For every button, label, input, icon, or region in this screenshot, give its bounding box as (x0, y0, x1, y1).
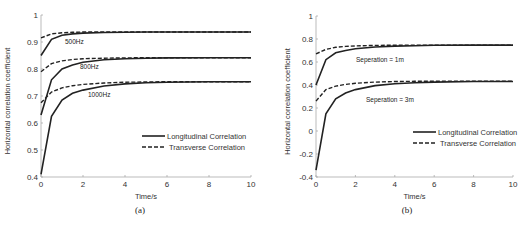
x-tick-label: 0 (314, 180, 319, 189)
chart-panel-b: 0246810-0.4-0.200.20.40.60.81Time/sHoriz… (283, 12, 518, 215)
x-tick-label: 6 (165, 180, 170, 189)
series-line (41, 82, 251, 103)
y-tick-label: 0.5 (27, 146, 39, 155)
y-tick-label: 0.8 (27, 65, 39, 74)
x-tick-label: 10 (509, 180, 518, 189)
y-tick-label: 0.6 (302, 58, 314, 67)
y-tick-label: 0.4 (302, 81, 314, 90)
annotation-label: 500Hz (65, 38, 84, 45)
y-axis-label: Horizontal correlation coefficient (283, 47, 292, 154)
series-line (316, 81, 513, 101)
series-line (316, 82, 513, 171)
y-tick-label: 0.9 (27, 38, 39, 47)
x-tick-label: 8 (471, 180, 476, 189)
x-tick-label: 10 (247, 180, 256, 189)
chart-panel-a: 02468100.40.50.60.70.80.91Time/sHorizont… (3, 11, 256, 215)
y-tick-label: 1 (34, 11, 39, 20)
x-tick-label: 0 (39, 180, 44, 189)
annotation-label: 800Hz (80, 63, 99, 70)
panel-caption: (b) (402, 205, 413, 215)
y-axis-label: Horizontal correlation coefficient (3, 47, 12, 154)
y-tick-label: 0.6 (27, 119, 39, 128)
legend-label: Longitudinal Correlation (438, 128, 517, 137)
x-tick-label: 4 (123, 180, 128, 189)
x-axis-label: Time/s (403, 192, 425, 201)
x-axis-label: Time/s (135, 192, 157, 201)
y-tick-label: 0.8 (302, 35, 314, 44)
annotation-label: Seperation = 1m (356, 56, 404, 64)
series-line (316, 45, 513, 85)
y-tick-label: 0.7 (27, 92, 39, 101)
y-tick-label: 0.4 (27, 173, 39, 182)
x-tick-label: 6 (432, 180, 437, 189)
x-tick-label: 2 (81, 180, 86, 189)
legend-label: Transverse Correlation (169, 143, 245, 152)
annotation-label: 1000Hz (88, 91, 110, 98)
series-line (41, 82, 251, 175)
series-line (41, 32, 251, 38)
y-tick-label: 0.2 (302, 104, 314, 113)
legend-label: Transverse Correlation (440, 139, 516, 148)
y-tick-label: 0 (309, 127, 314, 136)
x-tick-label: 4 (393, 180, 398, 189)
x-tick-label: 8 (207, 180, 212, 189)
figure-canvas: 02468100.40.50.60.70.80.91Time/sHorizont… (0, 0, 532, 225)
y-tick-label: -0.4 (299, 173, 313, 182)
legend-label: Longitudinal Correlation (167, 132, 246, 141)
x-tick-label: 2 (353, 180, 358, 189)
y-tick-label: -0.2 (299, 150, 313, 159)
panel-caption: (a) (135, 205, 145, 215)
y-tick-label: 1 (309, 12, 314, 21)
annotation-label: Seperation = 3m (366, 96, 414, 104)
